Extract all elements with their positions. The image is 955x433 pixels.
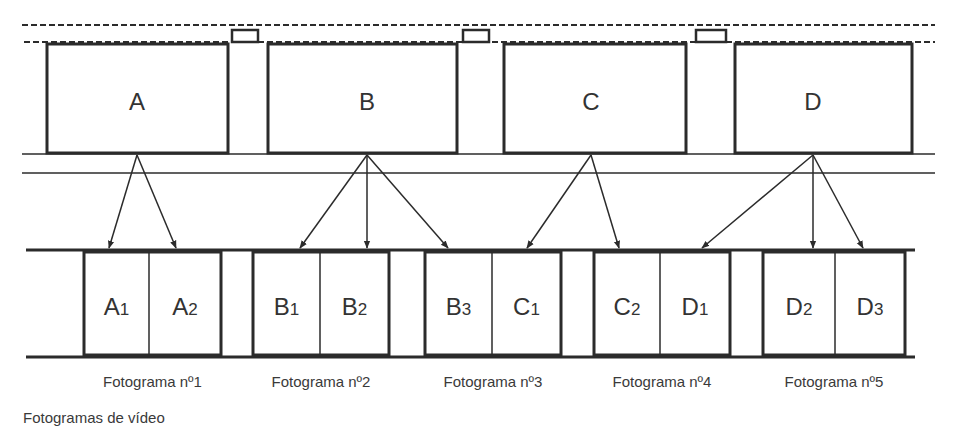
- pulldown-arrow-b: [300, 155, 367, 248]
- film-strip: ABCD: [22, 25, 935, 173]
- video-frame-1: A1A2: [84, 252, 221, 355]
- pulldown-arrow-c: [527, 155, 591, 248]
- film-frame-d: D: [735, 44, 912, 153]
- pulldown-arrow-d: [702, 155, 813, 248]
- film-frame-b: B: [268, 44, 457, 153]
- film-frame-c: C: [504, 44, 686, 153]
- sprocket-hole: [232, 30, 258, 42]
- frame-caption: Fotograma nº2: [272, 373, 371, 390]
- film-frame-label: A: [129, 88, 145, 115]
- pulldown-diagram: ABCD A1A2B1B2B3C1C2D1D2D3: [0, 0, 955, 433]
- frame-caption: Fotograma nº3: [444, 373, 543, 390]
- pulldown-arrow-b: [367, 155, 448, 248]
- pulldown-arrow-c: [591, 155, 619, 248]
- frame-caption: Fotograma nº5: [785, 373, 884, 390]
- sprocket-hole: [463, 30, 489, 42]
- frame-caption: Fotograma nº1: [103, 373, 202, 390]
- video-frame-4: C2D1: [594, 252, 730, 355]
- film-frame-label: C: [582, 88, 599, 115]
- film-frame-a: A: [47, 44, 228, 153]
- video-frame-5: D2D3: [763, 252, 905, 355]
- film-frame-label: B: [359, 88, 375, 115]
- frame-caption: Fotograma nº4: [613, 373, 712, 390]
- video-frame-3: B3C1: [425, 252, 561, 355]
- film-frame-label: D: [804, 88, 821, 115]
- video-strip: A1A2B1B2B3C1C2D1D2D3: [26, 250, 915, 357]
- pulldown-arrows: [109, 155, 863, 248]
- diagram-caption: Fotogramas de vídeo: [23, 409, 165, 426]
- pulldown-arrow-a: [109, 155, 137, 248]
- pulldown-arrow-a: [137, 155, 176, 248]
- pulldown-arrow-d: [813, 155, 863, 248]
- video-frame-2: B1B2: [253, 252, 389, 355]
- sprocket-hole: [696, 30, 726, 42]
